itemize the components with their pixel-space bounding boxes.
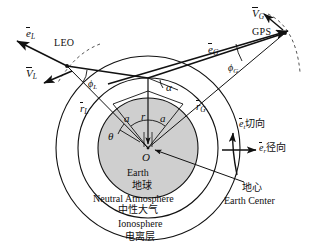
e-leo-label: eL — [26, 28, 35, 41]
alpha-right-label: a — [160, 113, 166, 124]
phi-gps-label: ϕG — [228, 63, 238, 75]
e-gps-label: eG — [208, 44, 218, 57]
e-tangential-label: et切向 — [239, 119, 265, 131]
earth-center-label-cn: 地心 — [242, 183, 262, 193]
theta-label: θ — [108, 131, 113, 142]
radius-r-label: r — [141, 111, 145, 122]
gps-label: GPS — [252, 27, 271, 37]
neutral-atmosphere-label-cn: 中性大气 — [118, 205, 158, 215]
ionosphere-label-cn: 电离层 — [125, 232, 155, 242]
neutral-atmosphere-label-en: Neutral Atmosphere — [93, 194, 174, 204]
earth-label-en: Earth — [127, 168, 149, 178]
alpha-top-label: α — [166, 82, 172, 93]
v-gps-label: VG — [252, 8, 264, 21]
leo-label: LEO — [54, 38, 74, 48]
phi-leo-label: ϕL — [88, 79, 97, 91]
phi-gps-arc — [236, 44, 242, 61]
origin-marker — [147, 147, 150, 150]
earth-label-cn: 地球 — [132, 181, 152, 191]
v-leo-vector — [44, 71, 72, 83]
occultation-geometry-figure: eL LEO VL ϕL rL VG GPS eG ϕG rG α a r a … — [0, 0, 319, 252]
r-leo-label: rL — [80, 103, 88, 116]
earth-center-label-en: Earth Center — [224, 196, 275, 206]
r-gps-label: rG — [196, 101, 206, 114]
leo-satellite-marker — [65, 64, 69, 68]
origin-label: O — [142, 152, 150, 163]
gps-satellite-marker — [283, 31, 287, 35]
diagram-canvas — [0, 0, 319, 252]
ionosphere-label-en: Ionosphere — [118, 219, 162, 229]
e-radial-label: er径向 — [259, 143, 286, 155]
v-leo-label: VL — [26, 68, 37, 81]
alpha-left-label: a — [124, 113, 130, 124]
